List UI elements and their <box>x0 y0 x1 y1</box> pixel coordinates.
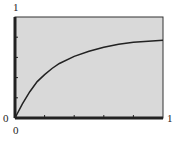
plot-area <box>0 0 174 143</box>
y-max-label: 1 <box>13 2 19 13</box>
x-min-label: 0 <box>13 125 19 136</box>
y-min-label: 0 <box>3 113 9 124</box>
x-max-label: 1 <box>167 113 173 124</box>
plot-background <box>15 17 163 118</box>
